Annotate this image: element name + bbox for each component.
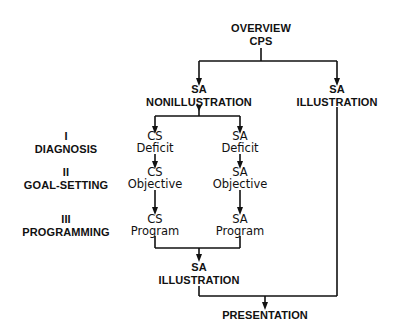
node-sa-nonillustration-line2: NONILLUSTRATION [146,96,252,109]
node-overview-line2: CPS [231,35,291,48]
phase-label-programming: III PROGRAMMING [22,213,109,238]
node-sa-nonillustration-line1: SA [146,83,252,96]
phase-label-goal-setting: II GOAL-SETTING [24,166,108,191]
node-sa-nonillustration: SA NONILLUSTRATION [146,83,252,108]
node-sa-objective: SA Objective [213,166,268,190]
node-sa-illustration-top: SA ILLUSTRATION [296,83,377,108]
phase-name: PROGRAMMING [22,226,109,239]
node-line2: Program [216,225,265,237]
node-sa-program: SA Program [216,213,265,237]
node-sa-deficit: SA Deficit [221,130,258,154]
flowchart-canvas: OVERVIEW CPS SA NONILLUSTRATION SA ILLUS… [0,0,398,336]
node-cs-program: CS Program [131,213,180,237]
node-sa-illustration-top-line1: SA [296,83,377,96]
node-line2: Program [131,225,180,237]
node-line1: SA [158,261,239,274]
node-line2: Objective [213,178,268,190]
phase-label-diagnosis: I DIAGNOSIS [35,130,98,155]
phase-numeral: II [24,166,108,179]
phase-numeral: III [22,213,109,226]
phase-name: DIAGNOSIS [35,143,98,156]
node-overview-cps: OVERVIEW CPS [231,22,291,47]
phase-name: GOAL-SETTING [24,179,108,192]
node-presentation-label: PRESENTATION [222,309,308,322]
node-line2: ILLUSTRATION [158,274,239,287]
node-overview-line1: OVERVIEW [231,22,291,35]
node-cs-deficit: CS Deficit [136,130,173,154]
node-line2: Objective [128,178,183,190]
node-line2: Deficit [221,142,258,154]
node-presentation: PRESENTATION [222,309,308,322]
phase-numeral: I [35,130,98,143]
node-line2: Deficit [136,142,173,154]
node-cs-objective: CS Objective [128,166,183,190]
node-sa-illustration-top-line2: ILLUSTRATION [296,96,377,109]
node-sa-illustration-bottom: SA ILLUSTRATION [158,261,239,286]
